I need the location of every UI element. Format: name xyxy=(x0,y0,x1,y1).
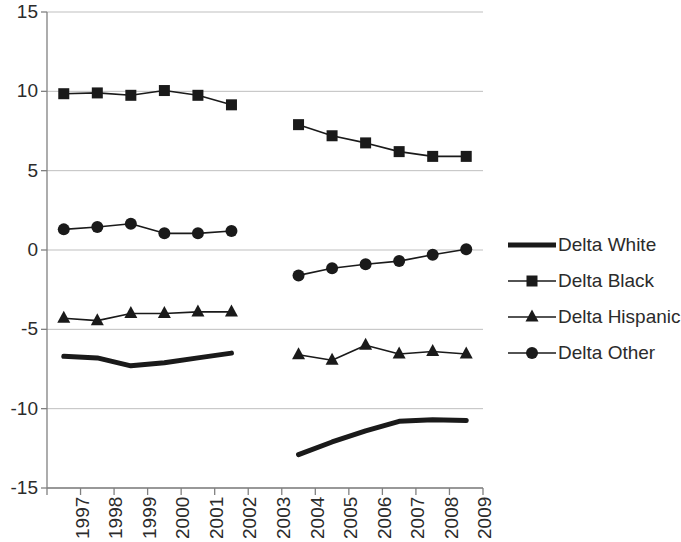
data-point-triangle xyxy=(57,311,70,323)
data-point-square xyxy=(527,276,538,287)
x-axis-label: 2000 xyxy=(173,497,192,539)
legend-label[interactable]: Delta Black xyxy=(558,271,654,290)
data-point-square xyxy=(360,137,371,148)
data-point-square xyxy=(327,130,338,141)
data-point-triangle xyxy=(359,338,372,350)
data-point-circle xyxy=(360,258,372,270)
x-axis-label: 2007 xyxy=(408,497,427,539)
data-point-square xyxy=(125,90,136,101)
y-tick-marks-group xyxy=(41,12,47,488)
legend-item-delta-other[interactable] xyxy=(508,347,556,359)
data-point-square xyxy=(159,85,170,96)
legend-label[interactable]: Delta Hispanic xyxy=(558,307,681,326)
data-point-square xyxy=(192,90,203,101)
legend-item-delta-hispanic[interactable] xyxy=(508,310,556,322)
data-point-square xyxy=(92,87,103,98)
series-line xyxy=(299,420,467,455)
x-axis-label: 2005 xyxy=(341,497,360,539)
data-point-triangle xyxy=(426,344,439,356)
data-point-triangle xyxy=(460,346,473,358)
x-axis-label: 2002 xyxy=(240,497,259,539)
x-axis-label: 1998 xyxy=(106,497,125,539)
data-point-triangle xyxy=(191,304,204,316)
data-point-square xyxy=(394,146,405,157)
data-point-triangle xyxy=(124,306,137,318)
data-point-circle xyxy=(293,269,305,281)
series-line xyxy=(64,312,232,321)
data-point-circle xyxy=(125,218,137,230)
y-axis-label: -5 xyxy=(2,319,38,338)
data-point-triangle xyxy=(526,310,539,322)
x-axis-label: 2001 xyxy=(207,497,226,539)
x-axis-label: 2003 xyxy=(274,497,293,539)
series-line xyxy=(299,345,467,360)
data-point-circle xyxy=(91,221,103,233)
data-point-circle xyxy=(58,223,70,235)
legend-glyphs-group xyxy=(508,245,556,359)
series-line xyxy=(299,249,467,275)
x-axis-label: 1997 xyxy=(73,497,92,539)
x-axis-label: 1999 xyxy=(140,497,159,539)
data-point-square xyxy=(461,151,472,162)
data-point-square xyxy=(226,99,237,110)
series-line xyxy=(299,125,467,157)
data-point-square xyxy=(58,88,69,99)
data-point-square xyxy=(293,119,304,130)
x-axis-label: 2006 xyxy=(375,497,394,539)
x-tick-marks-group xyxy=(47,488,483,495)
data-point-circle xyxy=(158,227,170,239)
series-line xyxy=(64,91,232,105)
data-point-square xyxy=(427,151,438,162)
series-line xyxy=(64,353,232,366)
y-axis-label: 10 xyxy=(2,81,38,100)
y-axis-label: -15 xyxy=(2,478,38,497)
x-axis-label: 2009 xyxy=(475,497,494,539)
data-point-circle xyxy=(526,347,538,359)
data-point-circle xyxy=(460,243,472,255)
legend-item-delta-black[interactable] xyxy=(508,276,556,287)
data-point-circle xyxy=(326,262,338,274)
y-axis-label: 5 xyxy=(2,161,38,180)
legend-label[interactable]: Delta White xyxy=(558,235,656,254)
series-delta-white xyxy=(64,353,466,455)
series-line xyxy=(64,224,232,234)
data-series-group xyxy=(57,85,472,455)
data-point-circle xyxy=(393,255,405,267)
x-axis-label: 2008 xyxy=(442,497,461,539)
x-axis-label: 2004 xyxy=(308,497,327,539)
data-point-triangle xyxy=(225,304,238,316)
series-delta-hispanic xyxy=(57,304,472,364)
y-axis-label: 0 xyxy=(2,240,38,259)
data-point-circle xyxy=(192,227,204,239)
gridlines-group xyxy=(47,12,483,488)
data-point-triangle xyxy=(158,306,171,318)
legend-label[interactable]: Delta Other xyxy=(558,343,655,362)
y-axis-label: -10 xyxy=(2,399,38,418)
data-point-circle xyxy=(427,249,439,261)
series-delta-black xyxy=(58,85,471,162)
data-point-circle xyxy=(225,225,237,237)
y-axis-label: 15 xyxy=(2,2,38,21)
data-point-triangle xyxy=(292,347,305,359)
